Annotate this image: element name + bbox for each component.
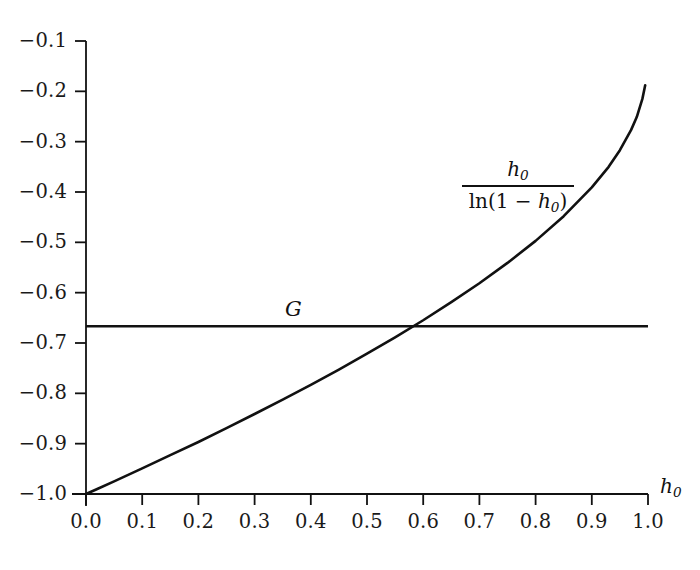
y-tick-label: −0.1 — [5, 29, 67, 52]
fraction-numerator: h0 — [462, 158, 574, 185]
fraction-denominator: ln(1 − h0) — [462, 187, 574, 215]
y-tick-label: −0.9 — [5, 432, 67, 455]
x-axis-label: h0 — [660, 474, 682, 500]
series-label-fraction: h0 ln(1 − h0) — [462, 158, 574, 215]
x-tick-marks — [86, 494, 648, 505]
y-tick-label: −0.8 — [5, 381, 67, 404]
x-tick-label: 0.2 — [168, 510, 228, 533]
x-tick-label: 0.8 — [506, 510, 566, 533]
y-tick-label: −1.0 — [5, 482, 67, 505]
series-curve-h0-over-ln — [86, 85, 645, 494]
plot-canvas — [0, 0, 700, 570]
x-tick-label: 0.3 — [225, 510, 285, 533]
x-tick-label: 0.7 — [449, 510, 509, 533]
x-tick-label: 0.6 — [393, 510, 453, 533]
y-tick-label: −0.3 — [5, 130, 67, 153]
axes-group — [72, 41, 648, 506]
chart-figure: −0.1−0.2−0.3−0.4−0.5−0.6−0.7−0.8−0.9−1.0… — [0, 0, 700, 570]
y-tick-label: −0.5 — [5, 230, 67, 253]
series-label-G: G — [285, 297, 302, 321]
y-tick-label: −0.4 — [5, 180, 67, 203]
y-tick-label: −0.6 — [5, 281, 67, 304]
x-tick-label: 1.0 — [618, 510, 678, 533]
y-tick-marks — [75, 41, 86, 494]
x-tick-label: 0.0 — [56, 510, 116, 533]
y-tick-label: −0.2 — [5, 79, 67, 102]
y-tick-label: −0.7 — [5, 331, 67, 354]
x-tick-label: 0.1 — [112, 510, 172, 533]
x-tick-label: 0.5 — [337, 510, 397, 533]
x-tick-label: 0.9 — [562, 510, 622, 533]
x-tick-label: 0.4 — [281, 510, 341, 533]
